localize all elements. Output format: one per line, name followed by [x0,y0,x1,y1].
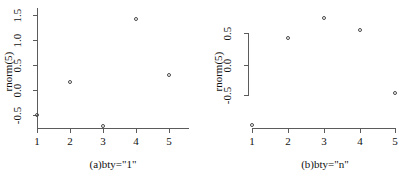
x-tick-mark-b-3 [360,129,361,133]
data-point [134,17,138,21]
x-tick-mark-b-0 [252,129,253,133]
y-tick-label-a-1: 0.0 [12,78,23,104]
x-tick-label-a-2: 3 [93,136,113,147]
y-tick-label-a-0: -0.5 [12,103,23,129]
x-tick-label-b-1: 2 [278,136,298,147]
y-tick-label-a-2: 0.5 [12,53,23,79]
x-tick-mark-a-0 [37,129,38,133]
x-tick-label-a-1: 2 [60,136,80,147]
x-tick-mark-b-2 [324,129,325,133]
x-tick-label-a-3: 4 [126,136,146,147]
data-point [250,123,254,127]
plot-panel-a: rnorm(5) -0.5 0.0 0.5 1.0 1.5 1 2 3 4 5 [0,0,199,183]
y-tick-label-b-2: 0.5 [222,21,233,47]
data-point [68,80,72,84]
x-tick-label-b-4: 5 [385,136,399,147]
data-point [393,91,397,95]
y-tick-label-b-0: -0.5 [222,83,233,109]
x-tick-label-b-2: 3 [314,136,334,147]
data-point [286,36,290,40]
y-axis-line-b [248,33,249,96]
data-point [167,73,171,77]
panel-caption-a: (a)bty="1" [43,158,183,170]
x-tick-label-b-0: 1 [242,136,262,147]
x-tick-mark-b-1 [288,129,289,133]
x-tick-label-b-3: 4 [350,136,370,147]
data-point [101,124,105,128]
x-tick-mark-b-4 [395,129,396,133]
x-tick-label-a-0: 1 [27,136,47,147]
data-point [322,16,326,20]
x-tick-mark-a-4 [169,129,170,133]
y-tick-label-a-4: 1.5 [12,3,23,29]
x-tick-mark-a-1 [70,129,71,133]
y-tick-label-b-1: 0.0 [222,53,233,79]
plot-area-b: rnorm(5) -0.5 0.0 0.5 1 2 3 4 5 (b)bty="… [200,0,399,183]
plot-panel-b: rnorm(5) -0.5 0.0 0.5 1 2 3 4 5 (b)bty="… [200,0,399,183]
x-tick-mark-a-2 [103,129,104,133]
data-point [35,113,39,117]
y-tick-label-a-3: 1.0 [12,28,23,54]
x-tick-mark-a-3 [136,129,137,133]
x-tick-label-a-4: 5 [159,136,179,147]
x-axis-line-a [37,128,189,129]
panel-caption-b: (b)bty="n" [255,158,395,170]
data-point [358,28,362,32]
plot-area-a: rnorm(5) -0.5 0.0 0.5 1.0 1.5 1 2 3 4 5 [0,0,199,183]
y-axis-line-a [37,8,38,129]
